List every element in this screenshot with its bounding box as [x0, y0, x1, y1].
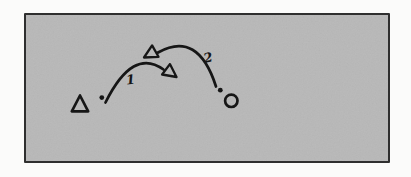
- paper-texture: [26, 15, 388, 161]
- left-dot: [99, 95, 104, 100]
- arrow-1-label: 1: [125, 72, 136, 88]
- sketch-photo: 1 2: [0, 0, 411, 177]
- right-dot: [218, 88, 223, 93]
